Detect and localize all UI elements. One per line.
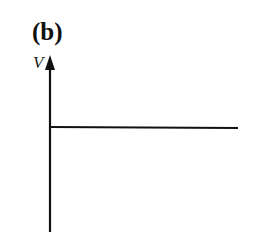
- y-axis-arrow-icon: [45, 55, 55, 70]
- diagram-canvas: [0, 0, 271, 232]
- constant-line: [50, 127, 238, 128]
